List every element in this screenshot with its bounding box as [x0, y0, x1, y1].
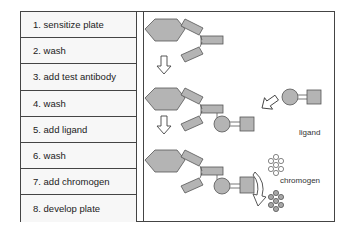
diagonal-arrow-icon	[258, 92, 281, 114]
antigen-1	[145, 19, 223, 62]
elisa-diagram	[0, 0, 352, 232]
ligand-label: ligand	[299, 128, 320, 137]
free-ligand	[282, 89, 321, 105]
antigen-2	[145, 88, 223, 131]
curved-arrow-icon	[253, 172, 266, 206]
chromogen-label: chromogen	[280, 176, 320, 185]
antigen-3	[145, 150, 223, 193]
down-arrow-icon	[157, 56, 171, 74]
bound-ligand-2	[214, 177, 254, 194]
down-arrow-icon	[157, 116, 171, 134]
chromogen-dots-open	[268, 154, 283, 175]
bound-ligand-1	[214, 116, 254, 132]
chromogen-dots-filled	[268, 190, 283, 211]
